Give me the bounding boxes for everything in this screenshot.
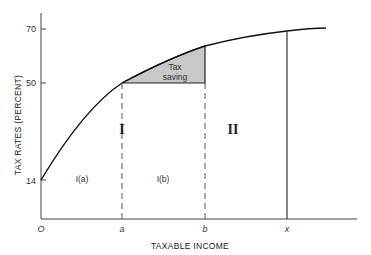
- x-tick-label-x: x: [284, 224, 290, 234]
- region-I-label: I: [119, 122, 124, 137]
- x-axis-title: TAXABLE INCOME: [151, 241, 229, 251]
- y-tick-label-14: 14: [26, 176, 36, 186]
- y-tick-label-70: 70: [26, 24, 36, 34]
- region-Ib-label: I(b): [157, 174, 170, 184]
- tax-saving-label-line2: saving: [163, 72, 188, 82]
- region-II-label: II: [228, 122, 239, 137]
- tax-rate-chart: 70 50 14 O a b x TAXABLE INCOME TAX RATE…: [0, 0, 371, 255]
- x-tick-label-a: a: [119, 224, 124, 234]
- x-tick-label-b: b: [202, 224, 207, 234]
- x-tick-label-origin: O: [37, 224, 44, 234]
- tax-saving-label-line1: Tax: [168, 62, 182, 72]
- tax-rate-curve: [41, 28, 326, 180]
- region-Ia-label: I(a): [76, 174, 89, 184]
- y-axis-title: TAX RATES (PERCENT): [13, 75, 23, 175]
- y-tick-label-50: 50: [26, 78, 36, 88]
